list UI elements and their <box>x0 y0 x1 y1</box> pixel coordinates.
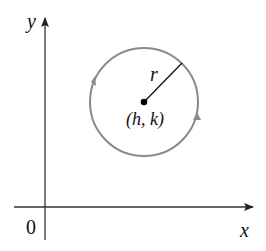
diagram-canvas: y x 0 r (h, k) <box>0 0 266 251</box>
y-axis-label: y <box>27 11 36 31</box>
center-label: (h, k) <box>126 110 164 128</box>
center-point <box>141 99 148 106</box>
origin-label: 0 <box>26 217 36 237</box>
right-direction-arrow-icon <box>193 112 201 120</box>
radius-label: r <box>150 64 158 84</box>
x-axis-label: x <box>240 220 249 240</box>
